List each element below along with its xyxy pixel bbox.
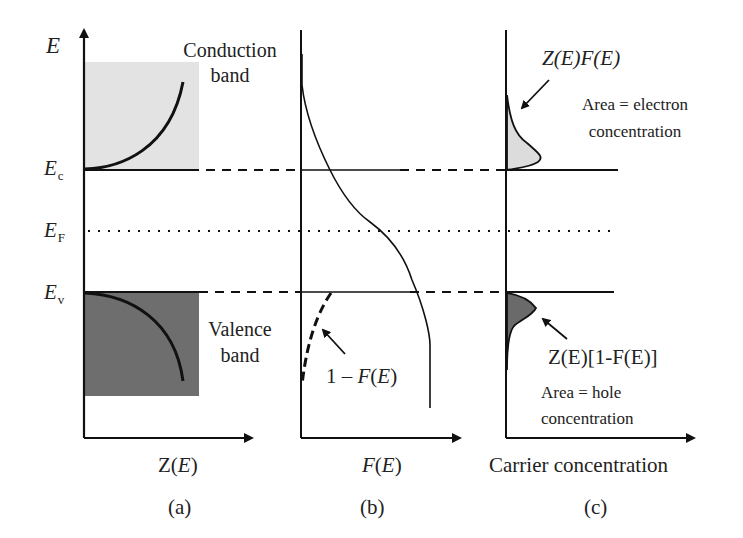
hole-distribution-curve <box>507 293 536 370</box>
fermi-axis-label: F(E) <box>362 455 402 476</box>
conduction-band-label-line1: Conduction <box>180 38 280 63</box>
ef-label-sub: F <box>58 230 65 245</box>
one-minus-f-F: F <box>358 364 371 388</box>
electron-curve-label: Z(E)F(E) <box>542 48 620 69</box>
one-minus-f-prefix: 1 – <box>326 364 358 388</box>
dos-label-var: E <box>178 453 191 477</box>
fermi-label-F: F <box>362 453 375 477</box>
valence-band-label: Valence band <box>205 316 275 368</box>
caption-c: (c) <box>584 497 607 518</box>
electron-area-label: Area = electron concentration <box>550 91 720 145</box>
ef-label-main: E <box>44 218 57 242</box>
fermi-label-E: E <box>382 453 395 477</box>
caption-b: (b) <box>360 497 385 518</box>
dos-axis-label: Z(E) <box>158 455 198 476</box>
hole-curve-label: Z(E)[1-F(E)] <box>548 347 658 368</box>
electron-area-line1: Area = electron <box>550 91 720 118</box>
one-minus-f-paren-close: ) <box>390 364 397 388</box>
fermi-dirac-curve <box>302 54 430 408</box>
ev-label-sub: v <box>58 292 65 307</box>
valence-band-label-line2: band <box>205 342 275 368</box>
hole-area-label: Area = hole concentration <box>541 380 634 432</box>
conduction-band-label: Conduction band <box>180 38 280 88</box>
one-minus-f-label: 1 – F(E) <box>326 366 397 387</box>
electron-pointer-arrow <box>522 80 549 108</box>
ev-label-main: E <box>44 280 57 304</box>
conduction-band-label-line2: band <box>180 63 280 88</box>
valence-band-label-line1: Valence <box>205 316 275 342</box>
caption-a: (a) <box>168 497 191 518</box>
electron-area-line2: concentration <box>550 118 720 145</box>
fermi-label-paren-open: ( <box>375 453 382 477</box>
dos-label-suffix: ) <box>191 453 198 477</box>
ec-label-sub: c <box>58 168 64 183</box>
ef-label: EF <box>44 220 65 241</box>
fermi-label-paren-close: ) <box>395 453 402 477</box>
hole-area-line2: concentration <box>541 406 634 432</box>
dos-label-prefix: Z( <box>158 453 178 477</box>
energy-axis-label: E <box>46 34 60 57</box>
hole-pointer-arrow <box>543 319 567 339</box>
ev-label: Ev <box>44 282 64 303</box>
one-minus-f-E: E <box>377 364 390 388</box>
ec-label: Ec <box>44 158 64 179</box>
one-minus-f-pointer-arrow <box>323 330 345 354</box>
ec-label-main: E <box>44 156 57 180</box>
hole-area-line1: Area = hole <box>541 380 634 406</box>
carrier-axis-label: Carrier concentration <box>489 455 668 476</box>
